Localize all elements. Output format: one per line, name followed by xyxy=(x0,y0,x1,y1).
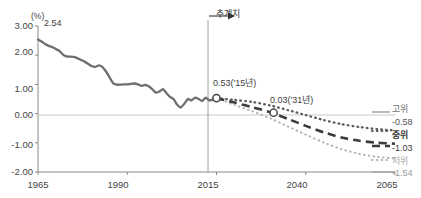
x-tick-label-1990: 1990 xyxy=(98,180,138,190)
series-actual-line xyxy=(38,39,217,107)
x-tick-label-2040: 2040 xyxy=(277,180,317,190)
y-tick-label-3: 3.00 xyxy=(0,21,33,31)
legend-label-low: 저위 xyxy=(392,157,408,166)
legend-label-mid: 중위 xyxy=(392,131,408,140)
projection-label: 추계치 xyxy=(216,10,240,19)
x-tick-label-2065: 2065 xyxy=(367,180,407,190)
legend-value-low: -1.54 xyxy=(392,169,413,178)
x-tick-label-1965: 1965 xyxy=(18,180,58,190)
population-growth-rate-chart xyxy=(0,0,421,198)
annotation-0-53-2015: 0.53('15년) xyxy=(213,79,256,88)
legend-value-high: -0.58 xyxy=(392,118,413,127)
chart-container: (%) 3.00 2.00 1.00 0.00 -1.00 -2.00 1965… xyxy=(0,0,421,198)
x-tick-label-2015: 2015 xyxy=(188,180,228,190)
y-tick-label-1: 1.00 xyxy=(0,84,33,94)
annotation-0-03-2031: 0.03('31년) xyxy=(270,96,313,105)
y-tick-label-2: 2.00 xyxy=(0,47,33,57)
y-tick-label-neg2: -2.00 xyxy=(0,167,33,177)
y-tick-label-neg1: -1.00 xyxy=(0,140,33,150)
y-tick-label-0: 0.00 xyxy=(0,110,33,120)
annotation-2-54: 2.54 xyxy=(44,19,62,28)
legend-label-high: 고위 xyxy=(392,105,408,114)
legend-value-mid: -1.03 xyxy=(392,144,413,153)
